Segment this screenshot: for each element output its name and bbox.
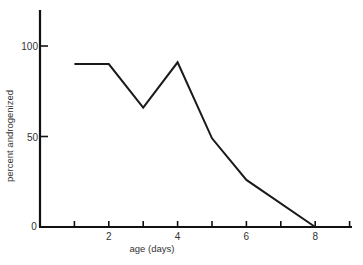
x-axis-title: age (days) (130, 243, 175, 254)
x-tick-label: 2 (106, 231, 112, 242)
y-tick-label: 100 (21, 41, 38, 52)
x-tick-label: 4 (175, 231, 181, 242)
x-tick-label: 0 (31, 221, 37, 232)
y-tick-label: 50 (27, 132, 39, 143)
line-chart: 0246850100 age (days) percent androgeniz… (0, 0, 363, 265)
x-tick-label: 8 (312, 231, 318, 242)
y-axis-title: percent androgenized (4, 90, 15, 182)
x-tick-label: 6 (244, 231, 250, 242)
ticks (40, 46, 350, 227)
axes (39, 10, 352, 227)
data-line (74, 62, 315, 227)
